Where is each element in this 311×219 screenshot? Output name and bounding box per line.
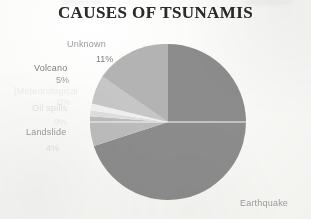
pie-value-oil-spills: 0% <box>54 117 67 127</box>
pie-chart <box>90 44 246 219</box>
pie-value-unknown: 11% <box>96 54 113 64</box>
pie-label-oil-spills: Oil spills <box>32 103 68 113</box>
pie-value-volcano: 5% <box>56 75 69 85</box>
pie-value-landslide: 4% <box>46 143 59 153</box>
pie-label-unknown: Unknown <box>67 39 106 49</box>
pie-label-volcano: Volcano <box>34 63 67 73</box>
chart-title: CAUSES OF TSUNAMIS <box>0 3 311 23</box>
chart-page: CAUSES OF TSUNAMIS Unknown 11% <box>0 0 311 219</box>
pie-slices <box>90 44 246 200</box>
pie-label-earthquake: Earthquake <box>240 198 288 208</box>
pie-label-landslide: Landslide <box>26 127 66 137</box>
pie-chart-svg <box>90 44 246 219</box>
pie-label-meteorological: [Meteorological <box>14 86 78 96</box>
